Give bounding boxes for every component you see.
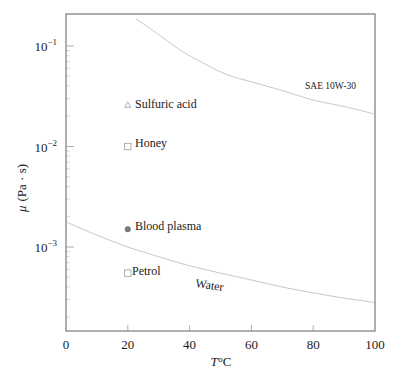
- y-tick-label: 10−3: [34, 238, 57, 255]
- sulfuric-acid-label: Sulfuric acid: [135, 97, 197, 111]
- petrol-label: Petrol: [132, 264, 161, 278]
- honey-square-marker: [125, 143, 131, 149]
- y-tick-label: 10−2: [34, 138, 57, 155]
- x-tick-label: 40: [183, 337, 196, 352]
- y-axis-label: μ(Pa · s): [14, 164, 29, 213]
- data-markers: [125, 102, 131, 276]
- x-tick-label: 0: [63, 337, 70, 352]
- curves: [66, 19, 375, 303]
- x-tick-label: 100: [365, 337, 385, 352]
- honey-label: Honey: [135, 136, 167, 150]
- water-label: Water: [195, 276, 225, 294]
- blood-plasma-circle-marker: [125, 226, 131, 232]
- sae-10w-30-label: SAE 10W-30: [305, 81, 356, 91]
- y-tick-label: 10−1: [34, 37, 57, 54]
- blood-plasma-label: Blood plasma: [135, 219, 202, 233]
- x-axis-ticks: 020406080100: [63, 325, 385, 352]
- x-axis-label: T°C: [210, 354, 231, 369]
- x-tick-label: 20: [121, 337, 134, 352]
- annotations: Sulfuric acidHoneyBlood plasmaPetrolSAE …: [132, 81, 356, 294]
- viscosity-chart: 020406080100 10−110−210−3 Sulfuric acidH…: [0, 0, 401, 378]
- sulfuric-acid-triangle-marker: [125, 102, 131, 108]
- x-tick-label: 60: [245, 337, 258, 352]
- x-tick-label: 80: [307, 337, 320, 352]
- petrol-square-marker: [125, 270, 131, 276]
